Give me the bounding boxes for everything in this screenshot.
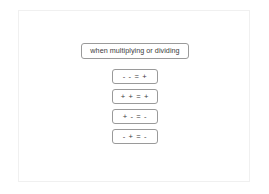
sign-rules-diagram: when multiplying or dividing - - = + + +… — [0, 0, 269, 194]
rule-node[interactable]: + + = + — [112, 89, 158, 104]
rule-node-label: - + = - — [123, 133, 147, 141]
diagram-canvas: when multiplying or dividing - - = + + +… — [0, 0, 269, 194]
rule-node-label: + + = + — [121, 93, 149, 101]
title-node[interactable]: when multiplying or dividing — [81, 43, 189, 59]
rule-node-label: + - = - — [123, 113, 147, 121]
rule-node[interactable]: - + = - — [112, 129, 158, 144]
rule-node-label: - - = + — [123, 73, 147, 81]
rule-node-list: - - = + + + = + + - = - - + = - — [112, 69, 158, 144]
rule-node[interactable]: + - = - — [112, 109, 158, 124]
rule-node[interactable]: - - = + — [112, 69, 158, 84]
title-node-label: when multiplying or dividing — [90, 47, 179, 54]
